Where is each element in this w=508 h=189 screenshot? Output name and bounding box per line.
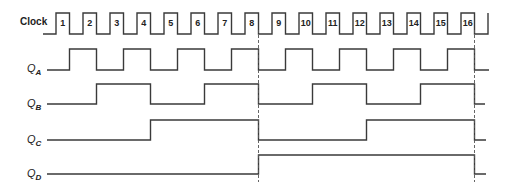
timing-diagram: Clock 12345678910111213141516 QA QB QC Q… bbox=[0, 0, 508, 189]
pulse-number: 2 bbox=[87, 18, 92, 28]
pulse-number: 12 bbox=[355, 18, 365, 28]
signal-qd-label: QD bbox=[27, 167, 42, 182]
pulse-number: 1 bbox=[60, 18, 65, 28]
pulse-number: 7 bbox=[222, 18, 227, 28]
pulse-number: 10 bbox=[301, 18, 311, 28]
pulse-number: 11 bbox=[328, 18, 338, 28]
pulse-number: 5 bbox=[168, 18, 173, 28]
qb-waveform bbox=[47, 84, 485, 104]
svg-text:QC: QC bbox=[27, 133, 42, 148]
pulse-number: 13 bbox=[382, 18, 392, 28]
pulse-number: 14 bbox=[409, 18, 419, 28]
signal-qb-label: QB bbox=[27, 97, 42, 112]
signal-qc-label: QC bbox=[27, 133, 42, 148]
pulse-number: 4 bbox=[141, 18, 146, 28]
qa-waveform bbox=[47, 49, 489, 70]
pulse-number: 15 bbox=[436, 18, 446, 28]
pulse-number: 8 bbox=[249, 18, 254, 28]
pulse-number: 16 bbox=[463, 18, 473, 28]
qd-waveform bbox=[47, 155, 486, 174]
svg-text:QB: QB bbox=[27, 97, 42, 112]
qc-waveform bbox=[47, 120, 486, 140]
signal-qa-label: QA bbox=[27, 62, 42, 77]
clock-pulse-numbers: 12345678910111213141516 bbox=[60, 18, 473, 28]
pulse-number: 6 bbox=[195, 18, 200, 28]
pulse-number: 9 bbox=[276, 18, 281, 28]
svg-text:QD: QD bbox=[27, 167, 42, 182]
svg-text:QA: QA bbox=[27, 62, 42, 77]
clock-label: Clock bbox=[20, 16, 48, 27]
clock-waveform bbox=[43, 13, 488, 34]
pulse-number: 3 bbox=[114, 18, 119, 28]
